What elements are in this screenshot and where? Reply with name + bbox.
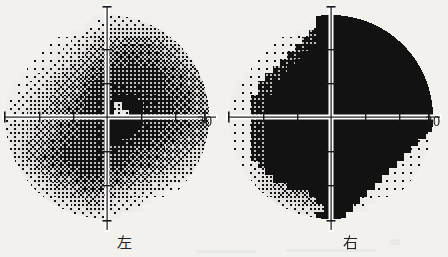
visual-field-figure: 30 左 30 右 (0, 0, 448, 257)
axis-degree-label-left: 30 (197, 116, 212, 128)
scan-artifact (286, 249, 376, 252)
grayscale-map-right-eye (226, 4, 442, 232)
visual-field-plot-right-eye (226, 4, 442, 232)
scan-artifact (390, 239, 400, 245)
scan-artifact (196, 250, 256, 253)
eye-label-left: 左 (104, 236, 144, 251)
visual-field-plot-left-eye (2, 4, 218, 232)
axis-degree-label-right: 30 (425, 116, 440, 128)
grayscale-map-left-eye (2, 4, 218, 232)
